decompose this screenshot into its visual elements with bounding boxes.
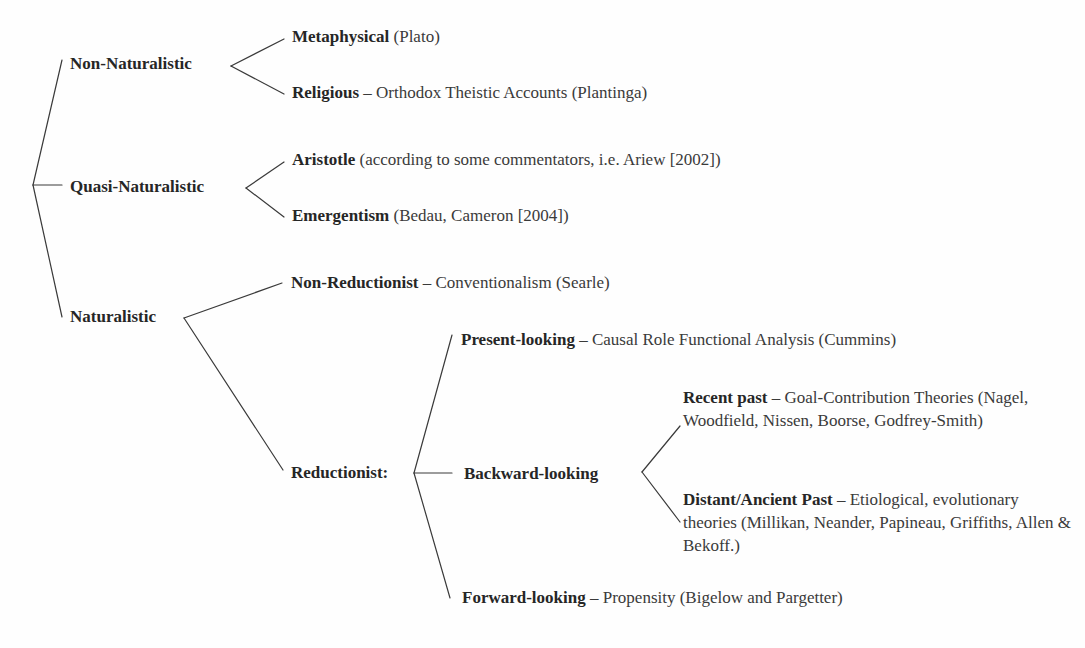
red-to-present-line: [414, 335, 452, 473]
node-label: Reductionist:: [291, 463, 388, 482]
quasi-to-emergentism-line: [246, 188, 284, 217]
non-nat-to-metaphysical-line: [231, 39, 284, 66]
root-to-non-naturalistic-line: [33, 60, 62, 185]
node-description: (according to some commentators, i.e. Ar…: [355, 150, 720, 169]
node-bold-label: Recent past: [683, 388, 768, 407]
backward-to-recent-line: [642, 426, 680, 472]
node-bold-label: Present-looking: [461, 330, 575, 349]
node-aristotle: Aristotle (according to some commentator…: [292, 149, 721, 171]
node-description: – Orthodox Theistic Accounts (Plantinga): [359, 83, 647, 102]
node-description: (Plato): [389, 27, 440, 46]
node-description: – Conventionalism (Searle): [419, 273, 610, 292]
node-recent-past: Recent past – Goal-Contribution Theories…: [683, 386, 1078, 432]
node-non-reductionist: Non-Reductionist – Conventionalism (Sear…: [291, 272, 610, 294]
node-backward-looking: Backward-looking: [464, 463, 598, 485]
node-label: Backward-looking: [464, 464, 598, 483]
node-description: – Causal Role Functional Analysis (Cummi…: [575, 330, 896, 349]
non-nat-to-religious-line: [231, 66, 284, 94]
node-metaphysical: Metaphysical (Plato): [292, 26, 440, 48]
root-to-naturalistic-line: [33, 185, 62, 317]
node-bold-label: Forward-looking: [462, 588, 586, 607]
node-bold-label: Metaphysical: [292, 27, 389, 46]
node-label: Non-Naturalistic: [70, 54, 192, 73]
red-to-forward-line: [414, 473, 450, 598]
node-label: Quasi-Naturalistic: [70, 177, 204, 196]
node-present-looking: Present-looking – Causal Role Functional…: [461, 329, 896, 351]
node-reductionist: Reductionist:: [291, 462, 388, 484]
node-bold-label: Aristotle: [292, 150, 355, 169]
quasi-to-aristotle-line: [246, 162, 284, 188]
node-bold-label: Distant/Ancient Past: [683, 490, 833, 509]
backward-to-distant-line: [642, 472, 680, 522]
node-religious: Religious – Orthodox Theistic Accounts (…: [292, 82, 647, 104]
node-quasi-naturalistic: Quasi-Naturalistic: [70, 176, 204, 198]
node-label: Naturalistic: [70, 307, 156, 326]
nat-to-non-reductionist-line: [184, 283, 282, 318]
diagram-canvas: Non-Naturalistic Quasi-Naturalistic Natu…: [0, 0, 1085, 648]
node-description: (Bedau, Cameron [2004]): [389, 206, 568, 225]
nat-to-reductionist-line: [184, 318, 283, 470]
node-forward-looking: Forward-looking – Propensity (Bigelow an…: [462, 587, 843, 609]
node-bold-label: Religious: [292, 83, 359, 102]
node-bold-label: Non-Reductionist: [291, 273, 419, 292]
node-non-naturalistic: Non-Naturalistic: [70, 53, 192, 75]
node-naturalistic: Naturalistic: [70, 306, 156, 328]
node-emergentism: Emergentism (Bedau, Cameron [2004]): [292, 205, 569, 227]
node-description: – Propensity (Bigelow and Pargetter): [586, 588, 843, 607]
node-distant-past: Distant/Ancient Past – Etiological, evol…: [683, 488, 1073, 557]
node-bold-label: Emergentism: [292, 206, 389, 225]
